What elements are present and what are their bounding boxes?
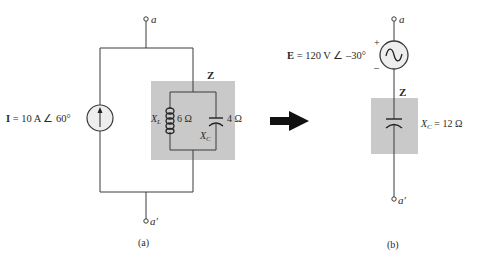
terminal-a-prime-label: a′ (150, 215, 159, 227)
terminal-b-top (392, 17, 396, 21)
terminal-b-bottom (392, 197, 396, 201)
terminal-a-bottom (144, 219, 148, 223)
impedance-label-b: Z (399, 86, 406, 98)
terminal-a-label: a (151, 13, 157, 25)
impedance-box-a (151, 81, 235, 160)
circuit-b: a a′ + – E = 120 V ∠ –30° Z XC = 12 Ω (b… (287, 13, 462, 251)
terminal-b-prime-label: a′ (398, 194, 407, 206)
circuit-diagram: a a′ Z I = 10 A ∠ 60° XL 6 Ω XC 4 Ω (a) … (0, 0, 479, 264)
inductor-value: 6 Ω (177, 113, 192, 124)
capacitor-label-b: XC = 12 Ω (420, 118, 462, 131)
circuit-a: a a′ Z I = 10 A ∠ 60° XL 6 Ω XC 4 Ω (a) (6, 13, 242, 249)
caption-b: (b) (387, 239, 399, 251)
arrow-right-icon (270, 111, 309, 131)
terminal-b-label: a (399, 13, 405, 25)
plus-sign: + (374, 37, 380, 48)
caption-a: (a) (138, 237, 149, 249)
terminal-a-top (144, 17, 148, 21)
minus-sign: – (373, 62, 380, 73)
capacitor-value-a: 4 Ω (227, 113, 242, 124)
impedance-label-a: Z (207, 69, 214, 81)
current-source-label: I = 10 A ∠ 60° (6, 113, 71, 124)
voltage-source-label: E = 120 V ∠ –30° (287, 50, 366, 61)
